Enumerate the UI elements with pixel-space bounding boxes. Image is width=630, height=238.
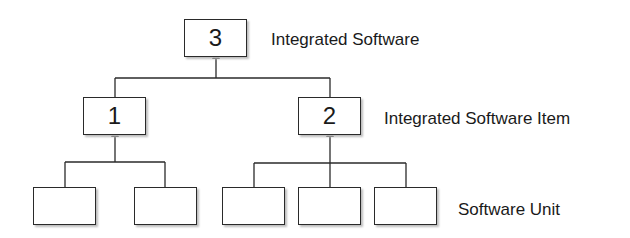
- software-unit-box: [374, 187, 437, 225]
- level-label-integrated-software-item: Integrated Software Item: [384, 109, 570, 129]
- edge-group-n2: [254, 137, 406, 187]
- edge-group-n1: [65, 137, 165, 187]
- node-3: 3: [184, 19, 247, 57]
- software-unit-box: [33, 187, 96, 225]
- node-2: 2: [298, 97, 361, 135]
- level-label-integrated-software: Integrated Software: [271, 30, 419, 50]
- node-2-label: 2: [323, 102, 336, 130]
- level-label-software-unit: Software Unit: [458, 200, 560, 220]
- node-1-label: 1: [108, 102, 121, 130]
- node-3-label: 3: [209, 24, 222, 52]
- software-unit-box: [134, 187, 197, 225]
- software-unit-box: [222, 187, 285, 225]
- software-unit-box: [298, 187, 361, 225]
- edge-group-n3: [115, 59, 330, 97]
- node-1: 1: [83, 97, 146, 135]
